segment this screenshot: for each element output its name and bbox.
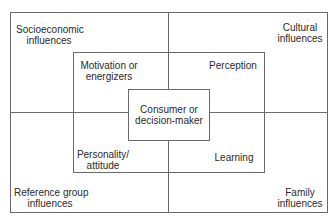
label-line: influences [275, 33, 325, 44]
label-motivation-energizers: Motivation or energizers [77, 60, 141, 82]
label-family-influences: Family influences [275, 187, 325, 209]
label-learning: Learning [210, 152, 258, 163]
vertical-divider-bottom [168, 140, 169, 213]
label-cultural-influences: Cultural influences [275, 22, 325, 44]
label-line: Socioeconomic [16, 24, 82, 35]
label-line: influences [14, 198, 86, 209]
label-line: Perception [205, 60, 261, 71]
horizontal-divider-left [10, 112, 128, 113]
label-line: energizers [77, 71, 141, 82]
label-consumer-decision-maker: Consumer or decision-maker [128, 104, 210, 126]
vertical-divider-top [168, 12, 169, 89]
label-socioeconomic-influences: Socioeconomic influences [16, 24, 82, 46]
label-line: Learning [210, 152, 258, 163]
label-line: decision-maker [128, 115, 210, 126]
label-personality-attitude: Personality/ attitude [75, 149, 131, 171]
label-line: Cultural [275, 22, 325, 33]
label-line: attitude [75, 160, 131, 171]
label-line: Family [275, 187, 325, 198]
horizontal-divider-right [209, 112, 328, 113]
label-line: influences [16, 35, 82, 46]
label-reference-group-influences: Reference group influences [14, 187, 86, 209]
label-line: Reference group [14, 187, 86, 198]
label-line: Motivation or [77, 60, 141, 71]
label-perception: Perception [205, 60, 261, 71]
label-line: Consumer or [128, 104, 210, 115]
label-line: influences [275, 198, 325, 209]
label-line: Personality/ [75, 149, 131, 160]
